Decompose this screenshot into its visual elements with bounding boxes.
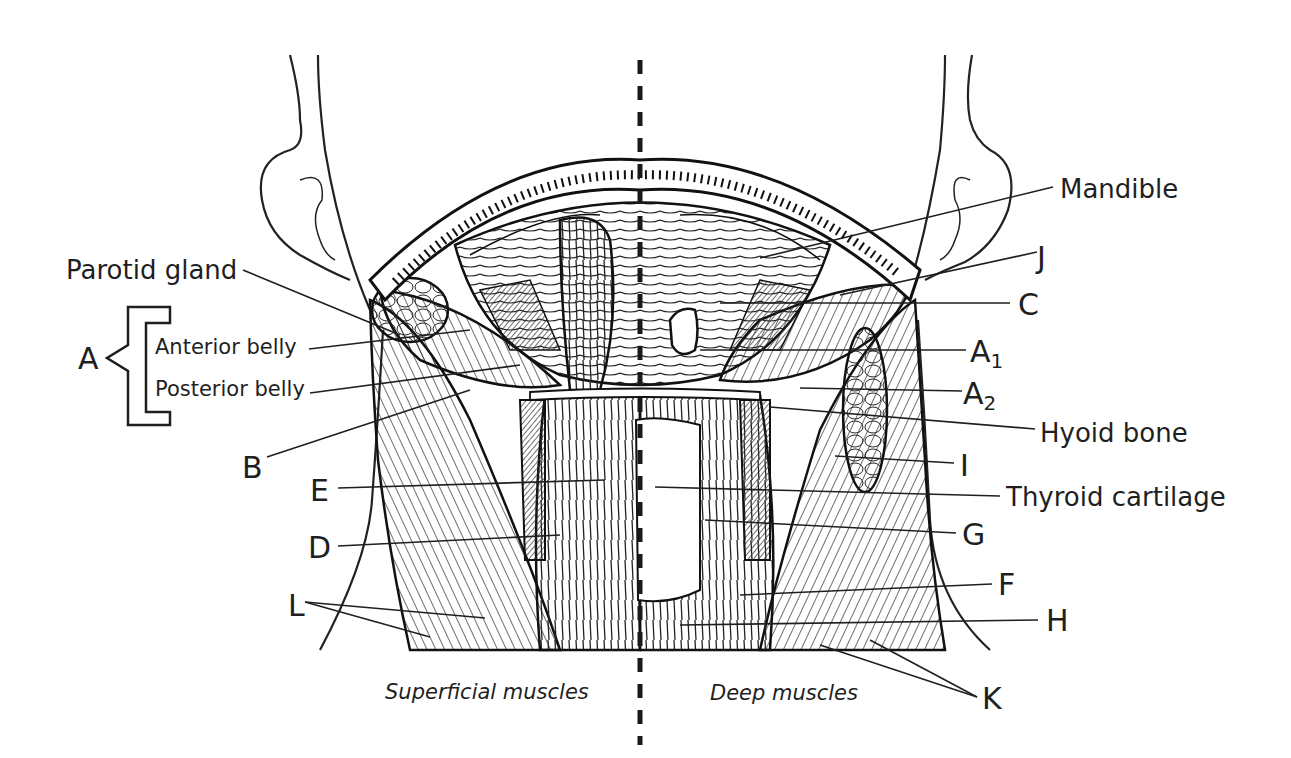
label-a-group: A: [78, 344, 99, 374]
label-d: D: [308, 533, 331, 563]
label-thyroid-cartilage: Thyroid cartilage: [1006, 484, 1226, 510]
left-ear: [261, 55, 370, 310]
label-mandible: Mandible: [1060, 176, 1178, 202]
label-parotid-gland: Parotid gland: [66, 257, 237, 283]
label-posterior-belly: Posterior belly: [155, 379, 305, 400]
label-c: C: [1018, 290, 1039, 320]
label-a1-letter: A: [970, 334, 991, 369]
label-hyoid-bone: Hyoid bone: [1040, 420, 1188, 446]
label-a1-subscript: 1: [991, 349, 1004, 373]
label-f: F: [998, 570, 1015, 600]
label-anterior-belly: Anterior belly: [155, 337, 297, 358]
label-b: B: [242, 453, 263, 483]
label-a2-letter: A: [963, 376, 984, 411]
label-k: K: [982, 684, 1002, 714]
label-a2: A2: [963, 379, 996, 413]
label-superficial-muscles: Superficial muscles: [385, 682, 589, 703]
label-i: I: [960, 451, 969, 481]
label-a2-subscript: 2: [984, 391, 997, 415]
label-h: H: [1046, 606, 1069, 636]
label-a1: A1: [970, 337, 1003, 371]
label-e: E: [310, 476, 329, 506]
a-bracket: [107, 307, 170, 425]
label-l: L: [288, 591, 305, 621]
right-ear: [905, 55, 1011, 300]
label-g: G: [962, 520, 985, 550]
label-deep-muscles: Deep muscles: [710, 683, 858, 704]
label-j: J: [1037, 243, 1046, 273]
muscle-fields: [370, 203, 945, 651]
